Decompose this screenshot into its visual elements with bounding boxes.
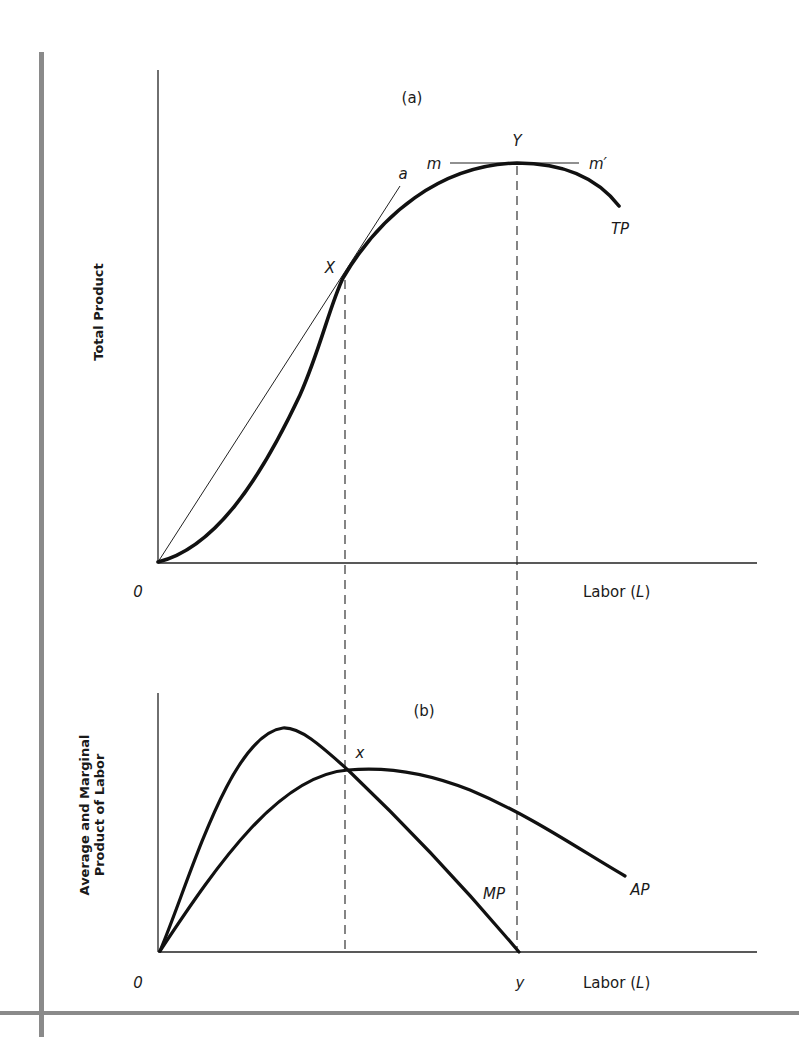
panel-b: (b) x MP AP 0 y Labor (L) Average and Ma… [77,693,757,992]
panel-a: (a) Y m m′ a X TP 0 Labor (L) Total Prod… [91,70,757,952]
panel-a-title: (a) [402,89,423,107]
mp-curve [160,728,519,952]
mp-label: MP [483,885,506,903]
point-y-label: Y [512,132,523,150]
panel-b-title: (b) [413,702,434,720]
m-label: m [427,155,442,173]
ap-curve [160,769,625,951]
m-prime-label: m′ [589,155,608,173]
a-label: a [398,165,407,183]
point-y-lower-label: y [515,974,526,992]
panel-a-origin-label: 0 [133,583,143,601]
panel-b-origin-label: 0 [133,974,143,992]
panel-b-x-axis-label: Labor (L) [583,974,650,992]
panel-b-y-axis-label-line2: Product of Labor [92,753,107,876]
tp-label: TP [611,220,630,238]
panel-b-y-axis-label-line1: Average and Marginal [77,735,92,896]
point-x-label: X [324,259,336,277]
point-x-lower-label: x [355,744,365,762]
ray-oa [158,186,400,562]
ap-label: AP [629,881,650,899]
production-curves-figure: (a) Y m m′ a X TP 0 Labor (L) Total Prod… [0,0,799,1037]
tp-curve [158,163,619,562]
panel-a-y-axis-label: Total Product [91,263,106,360]
panel-a-x-axis-label: Labor (L) [583,583,650,601]
